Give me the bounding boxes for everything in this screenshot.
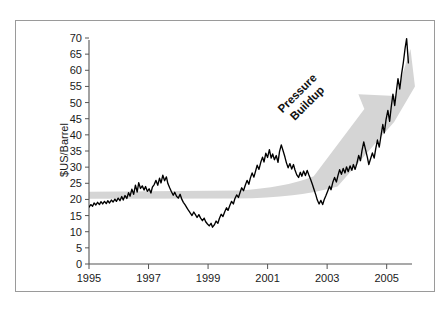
- y-tick-label: 45: [70, 113, 82, 125]
- y-tick-label: 0: [76, 258, 82, 270]
- y-axis-title: $US/Barrel: [58, 123, 70, 177]
- y-tick-label: 20: [70, 193, 82, 205]
- x-axis: 199519971999200120032005: [77, 264, 412, 284]
- y-tick-label: 70: [70, 32, 82, 44]
- x-tick-label: 2005: [374, 272, 398, 284]
- y-tick-label: 15: [70, 210, 82, 222]
- y-tick-label: 65: [70, 48, 82, 60]
- y-tick-label: 40: [70, 129, 82, 141]
- y-tick-label: 60: [70, 64, 82, 76]
- x-tick-label: 1999: [196, 272, 220, 284]
- y-tick-label: 5: [76, 242, 82, 254]
- oil-price-chart: 0510152025303540455055606570 19951997199…: [0, 0, 446, 312]
- annotation-text-group: PressureBuildup: [276, 72, 329, 125]
- y-tick-label: 35: [70, 145, 82, 157]
- x-tick-label: 1995: [77, 272, 101, 284]
- annotation-pressure-buildup: PressureBuildup: [276, 72, 329, 125]
- y-tick-label: 55: [70, 80, 82, 92]
- pressure-buildup-arrow: [89, 49, 415, 199]
- x-tick-label: 2003: [315, 272, 339, 284]
- y-tick-label: 10: [70, 226, 82, 238]
- y-tick-label: 50: [70, 97, 82, 109]
- y-tick-label: 25: [70, 177, 82, 189]
- x-tick-label: 1997: [136, 272, 160, 284]
- arrow-band-shape: [89, 49, 415, 199]
- y-axis: 0510152025303540455055606570: [70, 32, 89, 270]
- chart-svg: 0510152025303540455055606570 19951997199…: [0, 0, 446, 312]
- x-tick-label: 2001: [255, 272, 279, 284]
- y-tick-label: 30: [70, 161, 82, 173]
